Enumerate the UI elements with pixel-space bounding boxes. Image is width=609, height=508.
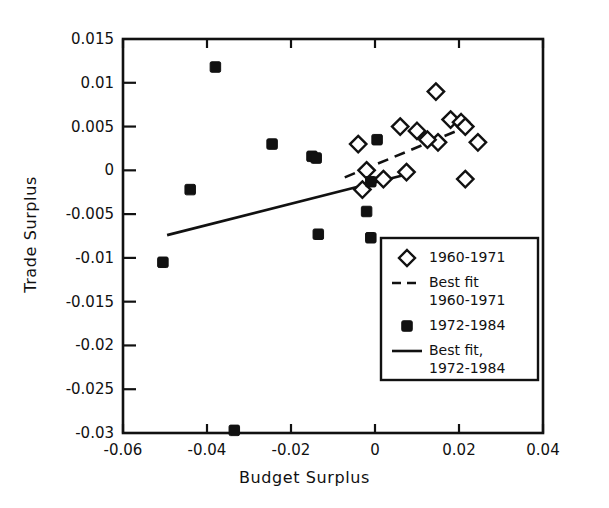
data-point-diamond	[350, 136, 366, 152]
data-point-diamond	[398, 164, 414, 180]
data-point-square	[267, 139, 278, 150]
y-axis-title: Trade Surplus	[21, 145, 40, 325]
y-tick-label: 0.005	[71, 118, 114, 136]
data-point-square	[366, 176, 377, 187]
y-tick-label: -0.01	[75, 249, 114, 267]
x-tick-label: 0.04	[526, 441, 559, 459]
data-point-square	[229, 425, 240, 436]
x-tick-label: 0.02	[442, 441, 475, 459]
legend-entry-label-line2[interactable]: 1960-1971	[429, 292, 505, 308]
data-point-diamond	[428, 83, 444, 99]
legend-entry-label[interactable]: 1960-1971	[429, 249, 505, 265]
legend-entry-label[interactable]: Best fit,	[429, 342, 483, 358]
data-point-diamond	[392, 118, 408, 134]
y-tick-label: 0.015	[71, 30, 114, 48]
y-tick-label: -0.015	[66, 293, 114, 311]
data-point-square	[210, 62, 221, 73]
data-point-diamond	[470, 134, 486, 150]
data-point-diamond	[457, 171, 473, 187]
y-tick-label: 0	[104, 161, 114, 179]
scatter-plot-figure: Budget Surplus Trade Surplus -0.06-0.04-…	[0, 0, 609, 508]
y-tick-label: -0.005	[66, 205, 114, 223]
x-axis-title: Budget Surplus	[0, 468, 609, 487]
data-point-square	[158, 257, 169, 268]
data-point-square	[361, 206, 372, 217]
data-point-diamond	[375, 171, 391, 187]
data-point-square	[366, 233, 377, 244]
data-point-square	[402, 321, 413, 332]
legend-entry-label[interactable]: 1972-1984	[429, 317, 505, 333]
x-tick-label: -0.02	[272, 441, 311, 459]
y-tick-label: -0.02	[75, 336, 114, 354]
y-tick-label: 0.01	[81, 74, 114, 92]
data-point-square	[313, 229, 324, 240]
y-tick-label: -0.025	[66, 380, 114, 398]
x-tick-label: 0	[370, 441, 380, 459]
y-tick-label: -0.03	[75, 424, 114, 442]
data-point-square	[311, 153, 322, 164]
data-point-square	[372, 134, 383, 145]
x-tick-label: -0.04	[188, 441, 227, 459]
legend-entry-label-line2[interactable]: 1972-1984	[429, 360, 505, 376]
x-tick-label: -0.06	[104, 441, 143, 459]
legend-entry-label[interactable]: Best fit	[429, 274, 479, 290]
data-point-square	[185, 184, 196, 195]
